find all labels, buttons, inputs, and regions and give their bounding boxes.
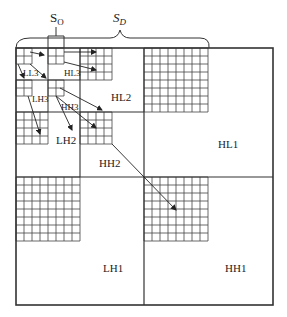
so-bracket: SO (48, 10, 64, 48)
label-hh1: HH1 (225, 262, 246, 274)
label-lh3: LH3 (32, 94, 49, 104)
sd-brace: SD (16, 10, 209, 48)
so-label: SO (50, 10, 64, 27)
label-hl3: HL3 (64, 68, 81, 78)
label-lh1: LH1 (103, 262, 123, 274)
label-hl2: HL2 (111, 91, 131, 103)
label-ll3: LL3 (23, 68, 39, 78)
subband-labels: LL3 HL3 LH3 HH3 HL2 LH2 HH2 HL1 LH1 HH1 (23, 68, 246, 274)
label-hl1: HL1 (218, 138, 238, 150)
wavelet-tree-diagram: SO SD LL3 HL3 LH3 HH3 HL2 LH2 H (0, 0, 287, 317)
label-hh2: HH2 (99, 157, 120, 169)
sd-label: SD (113, 10, 127, 27)
label-lh2: LH2 (56, 134, 76, 146)
label-hh3: HH3 (61, 102, 79, 112)
